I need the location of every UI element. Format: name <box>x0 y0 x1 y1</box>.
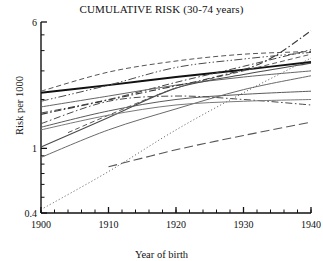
data-line-series-3 <box>41 50 311 113</box>
plot-canvas: 0.41619001910192019301940 <box>0 0 323 261</box>
x-tick-label: 1940 <box>301 219 321 230</box>
y-tick-label: 6 <box>32 17 37 28</box>
data-line-series-13 <box>41 31 311 115</box>
x-tick-label: 1920 <box>166 219 186 230</box>
chart-figure: CUMULATIVE RISK (30-74 years) Risk per 1… <box>0 0 323 261</box>
y-tick-label: 0.4 <box>25 208 38 219</box>
data-line-series-11 <box>41 58 311 210</box>
y-tick-label: 1 <box>32 143 37 154</box>
x-tick-label: 1930 <box>234 219 254 230</box>
x-tick-label: 1910 <box>99 219 119 230</box>
data-line-series-12 <box>109 122 312 167</box>
data-line-series-14 <box>41 99 311 129</box>
x-tick-label: 1900 <box>31 219 51 230</box>
